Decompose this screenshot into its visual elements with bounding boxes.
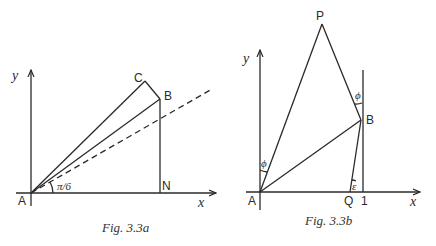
x-axis-label: x (197, 195, 205, 210)
point-label-Q: Q (344, 194, 353, 208)
angle-label-pi6: π/6 (57, 180, 72, 192)
line-AB (31, 99, 160, 193)
diagram-canvas: y x A C B N π/6 Fig. 3.3a y x P B A Q 1 … (0, 0, 436, 246)
y-axis-label: y (10, 68, 19, 83)
angle-label-phi-top: ϕ (355, 89, 361, 101)
point-label-B: B (164, 89, 172, 103)
point-label-P: P (316, 9, 324, 23)
tick-label-1: 1 (361, 194, 368, 208)
angle-arc-phi-top (355, 103, 362, 104)
angle-arc-pi6 (50, 182, 53, 193)
line-CB (145, 81, 160, 99)
x-axis-label: x (409, 194, 417, 209)
caption-fig-3-3a: Fig. 3.3a (101, 220, 150, 235)
point-label-A: A (18, 194, 26, 208)
point-label-A: A (248, 194, 256, 208)
angle-arc-phi-left (260, 170, 267, 172)
point-label-B: B (366, 113, 374, 127)
figure-3-3b: y x P B A Q 1 ϕ ϕ ε Fig. 3.3b (241, 9, 420, 228)
figure-3-3a: y x A C B N π/6 Fig. 3.3a (10, 68, 216, 235)
angle-label-epsilon: ε (352, 180, 357, 192)
line-AP (260, 24, 322, 192)
caption-fig-3-3b: Fig. 3.3b (304, 213, 353, 228)
line-PB (322, 24, 361, 120)
line-AB (260, 120, 361, 192)
point-label-N: N (162, 179, 171, 193)
point-label-C: C (134, 71, 143, 85)
angle-label-phi-left: ϕ (261, 157, 267, 169)
y-axis-label: y (241, 51, 250, 66)
